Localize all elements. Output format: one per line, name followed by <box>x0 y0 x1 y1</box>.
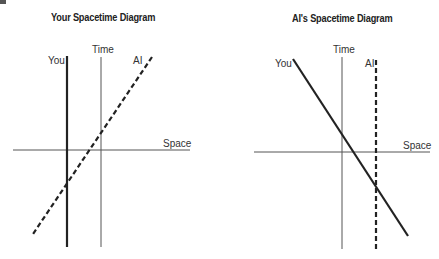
left-you-label: You <box>48 55 65 66</box>
right-you-label: You <box>275 58 292 69</box>
right-time-label: Time <box>333 44 355 55</box>
right-space-label: Space <box>403 140 432 151</box>
right-spacetime-diagram: Time Space You AI <box>254 44 432 250</box>
left-space-label: Space <box>163 138 192 149</box>
right-you-worldline <box>293 59 408 236</box>
left-spacetime-diagram: Time Space You AI <box>13 44 192 247</box>
left-ai-label: AI <box>133 55 142 66</box>
left-time-label: Time <box>92 44 114 55</box>
right-ai-label: AI <box>365 58 374 69</box>
left-ai-worldline <box>33 57 152 234</box>
